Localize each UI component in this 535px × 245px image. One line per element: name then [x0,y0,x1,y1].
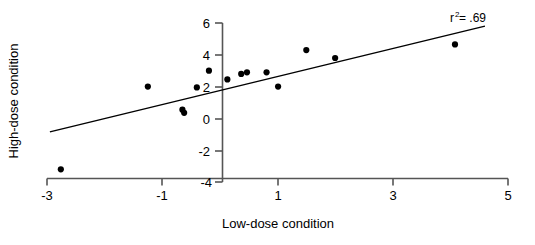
data-point [275,84,281,90]
data-point [238,71,244,77]
y-tick-label-0: 0 [203,112,210,127]
data-point [58,166,64,172]
x-axis-title: Low-dose condition [222,216,334,231]
data-point [224,76,230,82]
x-tick-label--3: -3 [41,188,53,203]
data-point [194,84,200,90]
x-tick-label-5: 5 [504,188,511,203]
data-point [181,110,187,116]
data-point [332,55,338,61]
y-axis-title: High-dose condition [6,44,21,159]
scatter-plot-figure: -3 -1 1 3 5 6 4 2 0 -2 -4 Low-dose condi… [0,0,535,245]
r-value: = .69 [459,11,486,25]
y-tick-label-6: 6 [203,16,210,31]
data-point [244,69,250,75]
r-squared-annotation: r 2 = .69 [450,10,486,25]
x-tick-label-1: 1 [274,188,281,203]
y-tick-label--2: -2 [198,144,210,159]
data-point [303,47,309,53]
regression-trendline [50,26,485,132]
r-symbol: r [450,11,454,25]
data-point [206,68,212,74]
data-point [452,41,458,47]
y-tick-label-4: 4 [203,48,210,63]
y-tick-label--4: -4 [200,175,212,190]
data-points-group [58,41,458,172]
data-point [263,69,269,75]
x-tick-label--1: -1 [156,188,168,203]
data-point [145,84,151,90]
chart-canvas: -3 -1 1 3 5 6 4 2 0 -2 -4 Low-dose condi… [0,0,535,245]
x-tick-label-3: 3 [389,188,396,203]
